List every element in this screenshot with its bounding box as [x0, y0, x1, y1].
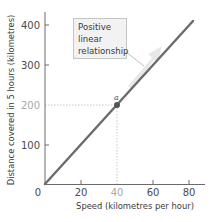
x-tick-label-20: 20 — [75, 187, 88, 198]
chart: 400 300 200 100 0 20 40 60 80 Speed (kil… — [0, 0, 211, 222]
y-tick-label-300: 300 — [21, 60, 40, 71]
y-axis-title: Distance covered in 5 hours (kilometres) — [6, 15, 16, 186]
trend-arrow-highlight — [128, 46, 162, 90]
x-tick-label-60: 60 — [147, 187, 160, 198]
annotation-leader-line — [126, 52, 144, 66]
x-axis-title: Speed (kilometres per hour) — [76, 201, 194, 211]
y-tick-label-200: 200 — [21, 100, 40, 111]
annotation-line-3: relationship — [78, 46, 129, 56]
point-a-label: a — [114, 93, 119, 102]
annotation-line-1: Positive — [78, 22, 111, 32]
origin-label: 0 — [35, 187, 41, 198]
y-tick-label-100: 100 — [21, 140, 40, 151]
annotation-line-2: linear — [78, 34, 103, 44]
x-tick-label-40: 40 — [111, 187, 124, 198]
point-a-marker — [114, 102, 120, 108]
y-tick-label-400: 400 — [21, 20, 40, 31]
x-tick-label-80: 80 — [183, 187, 196, 198]
